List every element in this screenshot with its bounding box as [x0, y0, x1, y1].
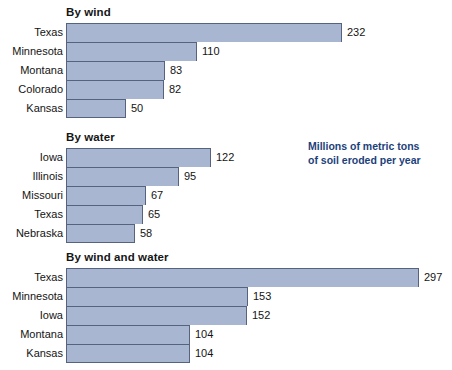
chart-title: By wind — [66, 6, 111, 18]
bar-row: Minnesota153 — [0, 287, 452, 306]
bar-category-label: Montana — [0, 325, 63, 344]
bar-category-label: Iowa — [0, 148, 63, 167]
bar-row: Texas232 — [0, 23, 452, 42]
bar-row: Missouri67 — [0, 186, 452, 205]
bar-track — [66, 186, 146, 205]
chart-title: By water — [66, 131, 115, 143]
bar — [66, 205, 143, 224]
bar — [66, 99, 126, 118]
bar-row: Kansas50 — [0, 99, 452, 118]
bar-category-label: Missouri — [0, 186, 63, 205]
bar-value-label: 152 — [252, 306, 270, 325]
bar-category-label: Iowa — [0, 306, 63, 325]
bar-track — [66, 42, 197, 61]
bar-track — [66, 61, 165, 80]
bar-row: Minnesota110 — [0, 42, 452, 61]
bar-category-label: Texas — [0, 205, 63, 224]
legend-line-2: of soil eroded per year — [308, 154, 448, 168]
bar — [66, 80, 164, 99]
bar-track — [66, 23, 342, 42]
bar-value-label: 232 — [347, 23, 365, 42]
bar-row: Illinois95 — [0, 167, 452, 186]
bar-category-label: Minnesota — [0, 42, 63, 61]
bar-value-label: 82 — [169, 80, 181, 99]
bar-row: Colorado82 — [0, 80, 452, 99]
bar-value-label: 83 — [170, 61, 182, 80]
bar — [66, 224, 135, 243]
bar-category-label: Colorado — [0, 80, 63, 99]
bar — [66, 344, 190, 363]
bar — [66, 287, 248, 306]
bar-value-label: 50 — [131, 99, 143, 118]
bar-row: Iowa152 — [0, 306, 452, 325]
bar-category-label: Montana — [0, 61, 63, 80]
bar-category-label: Kansas — [0, 344, 63, 363]
bar — [66, 186, 146, 205]
legend-units-note: Millions of metric tons of soil eroded p… — [308, 140, 448, 167]
bar-value-label: 122 — [216, 148, 234, 167]
legend-line-1: Millions of metric tons — [308, 140, 448, 154]
bar-value-label: 67 — [151, 186, 163, 205]
bar-track — [66, 224, 135, 243]
chart-title: By wind and water — [66, 251, 169, 263]
bar-category-label: Nebraska — [0, 224, 63, 243]
bar — [66, 167, 179, 186]
bar-value-label: 297 — [424, 268, 442, 287]
bar-value-label: 65 — [148, 205, 160, 224]
bar — [66, 42, 197, 61]
bar-value-label: 104 — [195, 325, 213, 344]
bar-track — [66, 325, 190, 344]
bar-track — [66, 80, 164, 99]
bar-track — [66, 205, 143, 224]
bar-track — [66, 99, 126, 118]
bar-row: Texas297 — [0, 268, 452, 287]
bar-value-label: 95 — [184, 167, 196, 186]
bar-track — [66, 287, 248, 306]
soil-erosion-figure: By wind Texas232Minnesota110Montana83Col… — [0, 0, 452, 370]
bar-row: Kansas104 — [0, 344, 452, 363]
bar-row: Montana104 — [0, 325, 452, 344]
bar-category-label: Kansas — [0, 99, 63, 118]
bar-category-label: Illinois — [0, 167, 63, 186]
bar-value-label: 104 — [195, 344, 213, 363]
bar-track — [66, 148, 211, 167]
bar-row: Texas65 — [0, 205, 452, 224]
bar-category-label: Texas — [0, 268, 63, 287]
bar — [66, 268, 419, 287]
chart-rows: Texas297Minnesota153Iowa152Montana104Kan… — [0, 268, 452, 363]
bar-value-label: 110 — [202, 42, 220, 61]
bar-value-label: 58 — [140, 224, 152, 243]
bar — [66, 325, 190, 344]
bar-row: Nebraska58 — [0, 224, 452, 243]
bar-category-label: Minnesota — [0, 287, 63, 306]
bar-track — [66, 344, 190, 363]
bar — [66, 306, 247, 325]
bar — [66, 61, 165, 80]
chart-rows: Texas232Minnesota110Montana83Colorado82K… — [0, 23, 452, 118]
bar-track — [66, 167, 179, 186]
bar-value-label: 153 — [253, 287, 271, 306]
bar-row: Montana83 — [0, 61, 452, 80]
bar-track — [66, 268, 419, 287]
bar-category-label: Texas — [0, 23, 63, 42]
bar-track — [66, 306, 247, 325]
bar — [66, 148, 211, 167]
bar — [66, 23, 342, 42]
